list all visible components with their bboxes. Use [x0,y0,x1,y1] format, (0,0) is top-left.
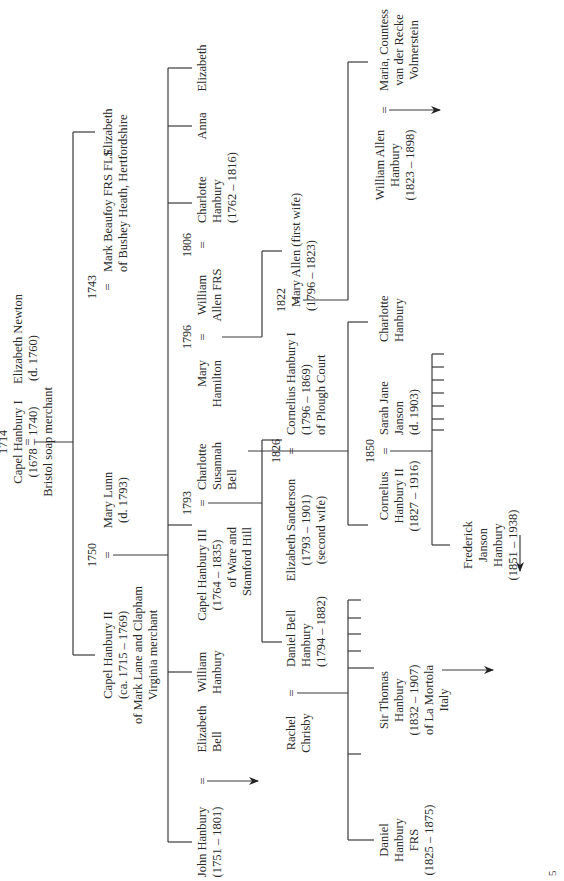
marriage-1796: 1796 [180,325,194,349]
svg-text:(1796 – 1823): (1796 – 1823) [304,240,318,311]
svg-text:(ca. 1715 – 1769): (ca. 1715 – 1769) [116,611,130,699]
marriage-symbol: = [195,499,210,506]
person-john-hanbury: John Hanbury (1751 – 1801) [195,806,224,877]
svg-text:Hanbury: Hanbury [388,142,402,186]
family-tree-diagram: Capel Hanbury I (1678 – 1740) Bristol so… [0,0,564,881]
svg-text:(1827 – 1916): (1827 – 1916) [407,461,421,532]
marriage-1826: 1826 [269,439,283,463]
svg-text:Hanbury: Hanbury [392,677,406,721]
marriage-symbol: = [378,447,393,454]
svg-text:(1794 – 1882): (1794 – 1882) [314,596,328,667]
svg-text:1743: 1743 [85,275,99,299]
marriage-symbol: = [195,333,210,340]
svg-text:=: = [100,283,115,290]
marriage-1806: 1806 [180,233,194,257]
svg-text:Cornelius Hanbury I: Cornelius Hanbury I [284,332,298,435]
person-elizabeth-sanderson: Elizabeth Sanderson (1793 – 1901) (secon… [284,478,328,581]
svg-text:Hanbury: Hanbury [299,623,313,667]
svg-text:(1762 – 1816): (1762 – 1816) [225,152,239,223]
svg-text:FRS: FRS [407,829,421,851]
svg-text:Charlotte: Charlotte [377,295,391,342]
person-elizabeth-bell: Elizabeth Bell [195,705,224,753]
svg-text:William: William [195,274,209,315]
svg-text:1793: 1793 [180,491,194,515]
svg-text:Capel Hanbury III: Capel Hanbury III [195,529,209,621]
svg-text:Elizabeth Sanderson: Elizabeth Sanderson [284,478,298,581]
marriage-symbol: = [195,777,210,784]
svg-text:5: 5 [546,870,558,876]
svg-text:=: = [195,241,210,248]
svg-text:Italy: Italy [437,688,451,712]
svg-text:1796: 1796 [180,325,194,349]
svg-text:of Mark Lane and Clapham: of Mark Lane and Clapham [131,586,145,724]
person-daniel-hanbury-frs: Daniel Hanbury FRS (1825 – 1875) [377,805,436,876]
svg-text:Hanbury II: Hanbury II [392,468,406,523]
svg-text:=: = [100,551,115,558]
svg-text:Anna: Anna [195,112,209,140]
svg-text:Virginia merchant: Virginia merchant [146,609,160,700]
svg-text:van der Recke: van der Recke [392,14,406,86]
svg-text:Chrisby: Chrisby [299,712,313,752]
svg-text:(1832 – 1907): (1832 – 1907) [407,665,421,736]
person-maria-countess: Maria, Countess van der Recke Volmerstei… [377,9,421,91]
marriage-1793: 1793 [180,491,194,515]
person-william-allen-hanbury: William Allen Hanbury (1823 – 1898) [373,129,417,200]
svg-text:Bell: Bell [225,469,239,490]
marriage-symbol: = [284,447,299,454]
marriage-1850: 1850 [363,439,377,463]
svg-text:Hamilton: Hamilton [210,359,224,407]
marriage-1822: 1822 [274,288,288,312]
svg-text:(1796 – 1869): (1796 – 1869) [299,364,313,435]
marriage-1743: 1743 [85,275,99,299]
svg-text:1714: 1714 [0,430,10,454]
person-anna: Anna [195,112,209,140]
svg-text:Rachel: Rachel [284,715,298,750]
person-elizabeth-gen2: Elizabeth [195,44,209,92]
person-mary-lunn: Mary Lunn (d. 1793) [101,471,130,528]
svg-text:Sarah Jane: Sarah Jane [377,381,391,435]
person-mary-allen: Mary Allen (first wife) (1796 – 1823) [289,193,318,311]
svg-text:1750: 1750 [85,543,99,567]
svg-text:(d. 1793): (d. 1793) [116,477,130,523]
person-rachel-chrisby: Rachel Chrisby [284,712,313,752]
svg-text:William Allen: William Allen [373,129,387,200]
svg-text:=: = [20,438,35,445]
svg-text:Hanbury: Hanbury [210,649,224,693]
svg-text:of Plough Court: of Plough Court [314,354,328,435]
svg-text:Maria, Countess: Maria, Countess [377,9,391,91]
marriage-symbol: = [20,438,35,445]
page-number: 5 [546,870,558,876]
person-mary-hamilton: Mary Hamilton [195,359,224,407]
svg-text:John Hanbury: John Hanbury [195,806,209,877]
marriage-symbol: = [284,689,299,696]
svg-text:(1793 – 1901): (1793 – 1901) [299,495,313,566]
person-charlotte-susannah-bell: Charlotte Susannah Bell [195,441,239,490]
svg-text:Susannah: Susannah [210,441,224,490]
svg-text:=: = [195,777,210,784]
marriage-symbol: = [100,551,115,558]
svg-text:Daniel Bell: Daniel Bell [284,609,298,667]
svg-text:Allen FRS: Allen FRS [210,268,224,321]
person-frederick-janson-hanbury: Frederick Janson Hanbury (1851 – 1938) [461,510,520,581]
svg-text:1826: 1826 [269,439,283,463]
svg-text:Janson: Janson [392,400,406,435]
person-elizabeth-gen1: Elizabeth [101,108,115,156]
marriage-symbol: = [195,241,210,248]
svg-text:1806: 1806 [180,233,194,257]
person-william-allen-frs: William Allen FRS [195,268,224,321]
svg-text:=: = [378,447,393,454]
svg-text:Charlotte: Charlotte [195,176,209,223]
svg-text:Daniel: Daniel [377,823,391,857]
svg-text:=: = [195,499,210,506]
person-daniel-bell-hanbury: Daniel Bell Hanbury (1794 – 1882) [284,596,328,667]
svg-text:1822: 1822 [274,288,288,312]
svg-text:Hanbury: Hanbury [392,298,406,342]
svg-text:Elizabeth: Elizabeth [195,705,209,753]
marriage-symbol: = [377,106,392,113]
svg-text:Charlotte: Charlotte [195,443,209,490]
svg-text:Frederick: Frederick [461,520,475,569]
svg-text:(second wife): (second wife) [314,496,328,564]
svg-text:Janson: Janson [476,527,490,562]
svg-text:Hanbury: Hanbury [392,817,406,861]
svg-text:(d. 1760): (d. 1760) [26,335,40,381]
